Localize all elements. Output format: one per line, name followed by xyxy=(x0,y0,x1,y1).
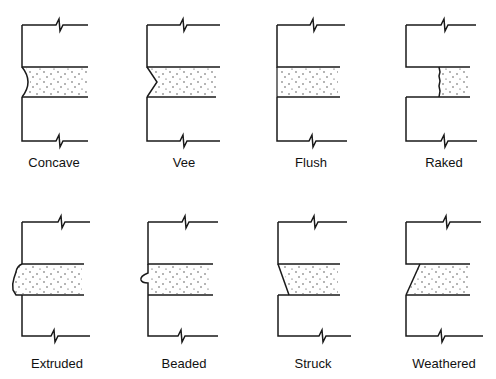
label-struck: Struck xyxy=(295,356,332,371)
label-vee: Vee xyxy=(173,155,195,170)
joint-raked xyxy=(406,19,477,147)
joint-flush xyxy=(277,19,347,147)
mortar-joint-diagram xyxy=(0,0,496,379)
label-flush: Flush xyxy=(295,155,327,170)
label-raked: Raked xyxy=(425,155,463,170)
joint-beaded xyxy=(141,216,218,342)
joint-struck xyxy=(278,216,351,342)
joint-concave xyxy=(22,19,88,147)
label-weathered: Weathered xyxy=(412,356,475,371)
label-extruded: Extruded xyxy=(31,356,83,371)
label-beaded: Beaded xyxy=(162,356,207,371)
joint-extruded xyxy=(13,216,91,342)
label-concave: Concave xyxy=(28,155,79,170)
joint-vee xyxy=(147,19,220,147)
joint-weathered xyxy=(406,216,483,342)
